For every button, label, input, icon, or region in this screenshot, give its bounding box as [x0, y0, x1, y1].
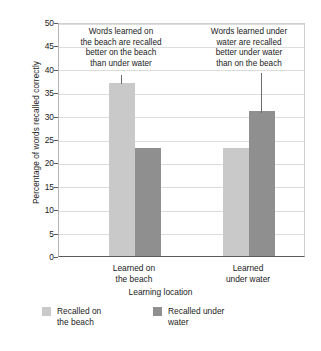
gridline: [59, 24, 304, 25]
y-axis-tick-label: 0: [32, 252, 54, 262]
y-axis-tick-mark: [54, 234, 58, 235]
bar: [223, 148, 249, 256]
y-axis-tick-label: 45: [32, 41, 54, 51]
legend-item: Recalled onthe beach: [42, 306, 135, 327]
annotation-line: Words learned on: [62, 27, 180, 38]
y-axis-tick-mark: [54, 93, 58, 94]
y-axis-tick-label: 15: [32, 182, 54, 192]
chart-legend: Recalled onthe beachRecalled underwater: [42, 306, 312, 327]
gridline: [59, 70, 304, 71]
y-axis-tick-label: 25: [32, 135, 54, 145]
bar: [249, 111, 275, 256]
y-axis-tick-mark: [54, 257, 58, 258]
y-axis-tick-mark: [54, 46, 58, 47]
annotation-leader-line: [261, 73, 262, 113]
y-axis-tick-label: 5: [32, 229, 54, 239]
y-axis-tick-mark: [54, 23, 58, 24]
legend-label-line: Recalled under: [168, 306, 246, 317]
y-axis-tick-mark: [54, 140, 58, 141]
annotation-line: than under water: [62, 59, 180, 70]
x-axis-title: Learning location: [0, 287, 321, 297]
gridline: [59, 94, 304, 95]
legend-label-line: water: [168, 317, 246, 328]
annotation-line: the beach are recalled: [62, 38, 180, 49]
legend-label: Recalled underwater: [168, 306, 246, 327]
y-axis-tick-label: 20: [32, 158, 54, 168]
x-axis-group-label: Learned onthe beach: [79, 263, 189, 284]
bar-chart: Percentage of words recalled correctly 0…: [0, 0, 321, 351]
y-axis-tick-mark: [54, 117, 58, 118]
y-axis-tick-label: 40: [32, 65, 54, 75]
y-axis-tick-label: 50: [32, 18, 54, 28]
legend-swatch: [153, 307, 162, 316]
annotation-line: water are recalled: [188, 38, 310, 49]
annotation-line: better under water: [188, 48, 310, 59]
legend-swatch: [42, 307, 51, 316]
bar: [109, 83, 135, 256]
legend-label-line: the beach: [57, 317, 135, 328]
legend-label-line: Recalled on: [57, 306, 135, 317]
annotation-water: Words learned underwater are recalledbet…: [188, 27, 310, 69]
bar: [135, 148, 161, 256]
annotation-leader-line: [121, 75, 122, 84]
y-axis-tick-label: 35: [32, 88, 54, 98]
annotation-beach: Words learned onthe beach are recalledbe…: [62, 27, 180, 69]
y-axis-tick-mark: [54, 163, 58, 164]
x-axis-group-label-line: under water: [193, 274, 303, 285]
legend-label: Recalled onthe beach: [57, 306, 135, 327]
x-axis-group-label: Learnedunder water: [193, 263, 303, 284]
annotation-line: Words learned under: [188, 27, 310, 38]
x-axis-group-label-line: Learned: [193, 263, 303, 274]
x-axis-group-label-line: Learned on: [79, 263, 189, 274]
y-axis-tick-labels: 05101520253035404550: [28, 23, 54, 257]
y-axis-tick-mark: [54, 210, 58, 211]
x-axis-group-label-line: the beach: [79, 274, 189, 285]
y-axis-tick-mark: [54, 187, 58, 188]
legend-item: Recalled underwater: [153, 306, 246, 327]
y-axis-tick-label: 30: [32, 112, 54, 122]
y-axis-tick-mark: [54, 70, 58, 71]
annotation-line: better on the beach: [62, 48, 180, 59]
y-axis-tick-label: 10: [32, 205, 54, 215]
annotation-line: than on the beach: [188, 59, 310, 70]
